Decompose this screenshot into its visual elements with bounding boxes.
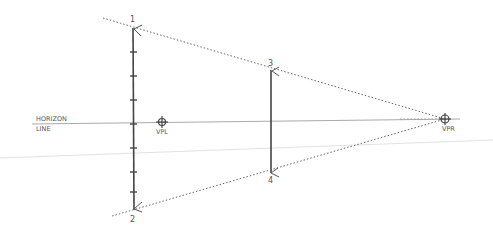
vertical-edge-1-2	[133, 28, 134, 210]
perspective-diagram: HORIZON LINE VPL VPR 1 2 3 4	[0, 0, 493, 237]
horizon-label-line2: LINE	[36, 125, 51, 133]
point-label-2: 2	[130, 215, 135, 224]
vpl-label: VPL	[156, 128, 168, 136]
vpr-marker-icon	[439, 113, 451, 125]
arrowheads	[134, 25, 279, 212]
vpl-marker-icon	[156, 116, 168, 128]
point-label-4: 4	[268, 176, 273, 185]
sketch-canvas: HORIZON LINE VPL VPR 1 2 3 4	[0, 0, 493, 237]
point-label-3: 3	[268, 59, 273, 68]
horizon-line	[32, 119, 460, 124]
vpr-label: VPR	[442, 125, 455, 133]
horizon-label-line1: HORIZON	[36, 115, 67, 123]
scan-crease-line	[0, 140, 493, 158]
convergence-line-top	[103, 18, 445, 119]
point-label-1: 1	[130, 15, 135, 24]
